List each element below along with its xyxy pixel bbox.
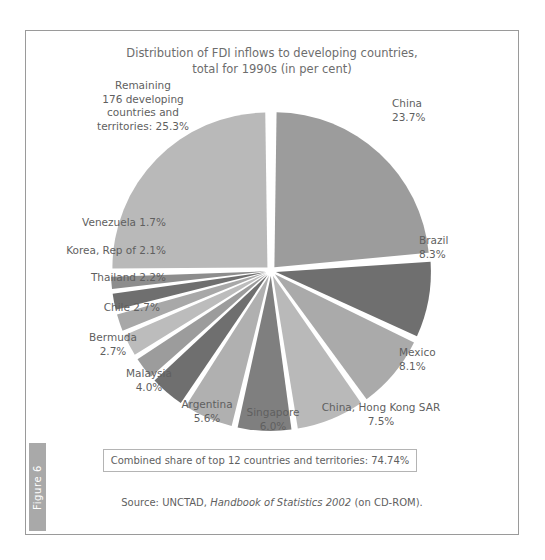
pie-slice <box>275 274 414 399</box>
source-note: Source: UNCTAD, Handbook of Statistics 2… <box>26 497 518 508</box>
pie-label-chile: Chile 2.7% <box>26 301 160 315</box>
source-prefix: Source: UNCTAD, <box>121 497 210 508</box>
figure-number-label: Figure 6 <box>32 465 43 510</box>
pie-label-hong-kong: China, Hong Kong SAR 7.5% <box>306 401 456 428</box>
pie-slice <box>138 274 268 377</box>
pie-label-thailand: Thailand 2.2% <box>26 271 166 285</box>
chart-title-line-1: Distribution of FDI inflows to developin… <box>26 45 518 61</box>
pie-label-brazil: Brazil 8.3% <box>419 234 519 261</box>
pie-label-korea: Korea, Rep of 2.1% <box>26 244 166 258</box>
pie-label-remaining: Remaining 176 developing countries and t… <box>78 79 208 133</box>
pie-label-mexico: Mexico 8.1% <box>399 346 499 373</box>
pie-slice <box>276 262 431 337</box>
chart-title: Distribution of FDI inflows to developin… <box>26 45 518 77</box>
figure-number-tab: Figure 6 <box>29 443 46 531</box>
chart-title-line-2: total for 1990s (in per cent) <box>26 61 518 77</box>
source-suffix: (on CD-ROM). <box>351 497 423 508</box>
pie-label-china: China 23.7% <box>392 97 512 124</box>
pie-label-venezuela: Venezuela 1.7% <box>26 216 166 230</box>
source-publication-title: Handbook of Statistics 2002 <box>210 497 351 508</box>
pie-label-malaysia: Malaysia 4.0% <box>104 367 194 394</box>
pie-slice <box>274 112 428 267</box>
combined-share-text: Combined share of top 12 countries and t… <box>111 455 410 466</box>
pie-label-argentina: Argentina 5.6% <box>162 398 252 425</box>
figure-frame: Distribution of FDI inflows to developin… <box>25 30 519 535</box>
pie-label-bermuda: Bermuda 2.7% <box>68 331 158 358</box>
combined-share-box: Combined share of top 12 countries and t… <box>103 449 417 472</box>
